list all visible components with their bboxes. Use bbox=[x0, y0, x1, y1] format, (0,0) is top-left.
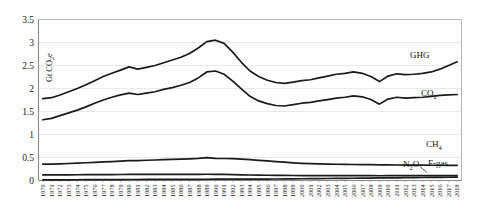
x-axis-tick-label: 1998 bbox=[281, 185, 288, 197]
x-axis-tick: 2016 bbox=[436, 185, 443, 197]
x-axis-tick-label: 1977 bbox=[100, 185, 107, 197]
x-axis-tick-label: 1993 bbox=[238, 185, 245, 197]
series-line-co2 bbox=[43, 71, 457, 120]
x-axis-tick-label: 2006 bbox=[350, 185, 357, 197]
x-axis-tick: 1985 bbox=[169, 185, 176, 197]
chart-figure: 00.511.522.533.5Gt CO2e19701971197219731… bbox=[0, 0, 477, 214]
series-line-n2o bbox=[43, 174, 457, 176]
x-axis-tick-label: 2008 bbox=[367, 185, 374, 197]
x-axis-tick: 2015 bbox=[428, 185, 435, 197]
x-axis-tick-label: 1981 bbox=[134, 185, 141, 197]
x-axis-tick-label: 2018 bbox=[453, 185, 460, 197]
ch4-series-annotation: CH4 bbox=[426, 139, 443, 151]
series-line-ghg bbox=[43, 40, 457, 98]
x-axis-tick-label: 2015 bbox=[428, 185, 435, 197]
x-axis-tick: 2014 bbox=[419, 185, 426, 197]
x-axis-tick: 1984 bbox=[160, 185, 167, 197]
x-axis-tick-label: 2012 bbox=[402, 185, 409, 197]
x-axis-tick: 2000 bbox=[298, 185, 305, 197]
x-axis-tick-label: 2014 bbox=[419, 185, 426, 197]
x-axis-tick: 1998 bbox=[281, 185, 288, 197]
x-axis-tick: 1981 bbox=[134, 185, 141, 197]
fgas-series-annotation: F-gas bbox=[428, 158, 448, 168]
x-axis-tick: 2003 bbox=[324, 185, 331, 197]
x-axis-tick: 1972 bbox=[56, 185, 63, 197]
x-axis-tick: 1980 bbox=[125, 185, 132, 197]
x-axis-tick: 1982 bbox=[143, 185, 150, 197]
y-axis-tick-label: 2.5 bbox=[22, 61, 34, 71]
y-axis-tick-label: 3.5 bbox=[22, 15, 34, 25]
x-axis-tick: 1977 bbox=[100, 185, 107, 197]
x-axis-tick-label: 2003 bbox=[324, 185, 331, 197]
x-axis-tick: 1971 bbox=[48, 185, 55, 197]
x-axis-tick: 2018 bbox=[453, 185, 460, 197]
x-axis-tick: 1987 bbox=[186, 185, 193, 197]
y-axis-tick-label: 3 bbox=[29, 38, 34, 48]
series-line-ch4 bbox=[43, 158, 457, 166]
x-axis-tick-label: 1970 bbox=[39, 185, 46, 197]
x-axis-tick: 1997 bbox=[272, 185, 279, 197]
x-axis-tick-label: 2013 bbox=[410, 185, 417, 197]
x-axis-tick-label: 1997 bbox=[272, 185, 279, 197]
x-axis-tick: 1970 bbox=[39, 185, 46, 197]
x-axis-tick-label: 1994 bbox=[246, 185, 253, 197]
x-axis-tick-label: 1972 bbox=[56, 185, 63, 197]
x-axis-tick: 1991 bbox=[220, 185, 227, 197]
x-axis-tick: 1995 bbox=[255, 185, 262, 197]
y-axis-tick-label: 1 bbox=[29, 130, 34, 140]
x-axis-tick: 1994 bbox=[246, 185, 253, 197]
x-axis-tick-label: 1985 bbox=[169, 185, 176, 197]
x-axis-tick: 2010 bbox=[384, 185, 391, 197]
x-axis-tick: 2011 bbox=[393, 185, 400, 197]
x-axis-tick-label: 1974 bbox=[74, 185, 81, 197]
x-axis-tick-label: 1987 bbox=[186, 185, 193, 197]
x-axis-tick: 2004 bbox=[333, 185, 340, 197]
x-axis-tick-label: 1971 bbox=[48, 185, 55, 197]
x-axis-tick: 1990 bbox=[212, 185, 219, 197]
x-axis-tick-label: 1990 bbox=[212, 185, 219, 197]
x-axis-tick: 2012 bbox=[402, 185, 409, 197]
x-axis-tick: 2002 bbox=[315, 185, 322, 197]
x-axis-tick: 2017 bbox=[445, 185, 452, 197]
x-axis-tick: 2009 bbox=[376, 185, 383, 197]
x-axis-tick-label: 2011 bbox=[393, 185, 400, 197]
x-axis-tick-label: 1975 bbox=[82, 185, 89, 197]
series-line-f-gas bbox=[43, 177, 457, 180]
x-axis-tick: 1986 bbox=[177, 185, 184, 197]
x-axis-tick: 1999 bbox=[289, 185, 296, 197]
x-axis-tick-label: 1979 bbox=[117, 185, 124, 197]
x-axis-tick: 1979 bbox=[117, 185, 124, 197]
x-axis-tick: 1989 bbox=[203, 185, 210, 197]
n2o-leader-line bbox=[420, 167, 427, 173]
x-axis-tick-label: 1984 bbox=[160, 185, 167, 197]
x-axis-tick-label: 1999 bbox=[289, 185, 296, 197]
x-axis-tick: 1978 bbox=[108, 185, 115, 197]
x-axis-tick: 1975 bbox=[82, 185, 89, 197]
y-axis-tick-label: 2 bbox=[29, 84, 34, 94]
x-axis-tick-label: 1992 bbox=[229, 185, 236, 197]
x-axis-tick-label: 1996 bbox=[264, 185, 271, 197]
x-axis-tick: 1983 bbox=[151, 185, 158, 197]
x-axis-tick: 2007 bbox=[359, 185, 366, 197]
x-axis-tick: 1973 bbox=[65, 185, 72, 197]
x-axis-tick: 2001 bbox=[307, 185, 314, 197]
x-axis-tick: 1976 bbox=[91, 185, 98, 197]
x-axis-tick-label: 2017 bbox=[445, 185, 452, 197]
x-axis-tick-label: 1982 bbox=[143, 185, 150, 197]
x-axis-tick-label: 1976 bbox=[91, 185, 98, 197]
x-axis-tick-label: 2004 bbox=[333, 185, 340, 197]
x-axis-tick-label: 1978 bbox=[108, 185, 115, 197]
x-axis-tick: 2005 bbox=[341, 185, 348, 197]
x-axis-tick-label: 1995 bbox=[255, 185, 262, 197]
x-axis-tick-label: 1986 bbox=[177, 185, 184, 197]
y-axis-tick-label: 0 bbox=[29, 176, 34, 186]
x-axis-tick: 1996 bbox=[264, 185, 271, 197]
co2-series-annotation: CO2 bbox=[421, 88, 437, 100]
x-axis-tick-label: 1989 bbox=[203, 185, 210, 197]
x-axis-tick-label: 1973 bbox=[65, 185, 72, 197]
x-axis-tick: 1974 bbox=[74, 185, 81, 197]
x-axis-tick-label: 1980 bbox=[125, 185, 132, 197]
x-axis-tick-label: 2002 bbox=[315, 185, 322, 197]
x-axis-tick: 2013 bbox=[410, 185, 417, 197]
x-axis-tick-label: 2001 bbox=[307, 185, 314, 197]
